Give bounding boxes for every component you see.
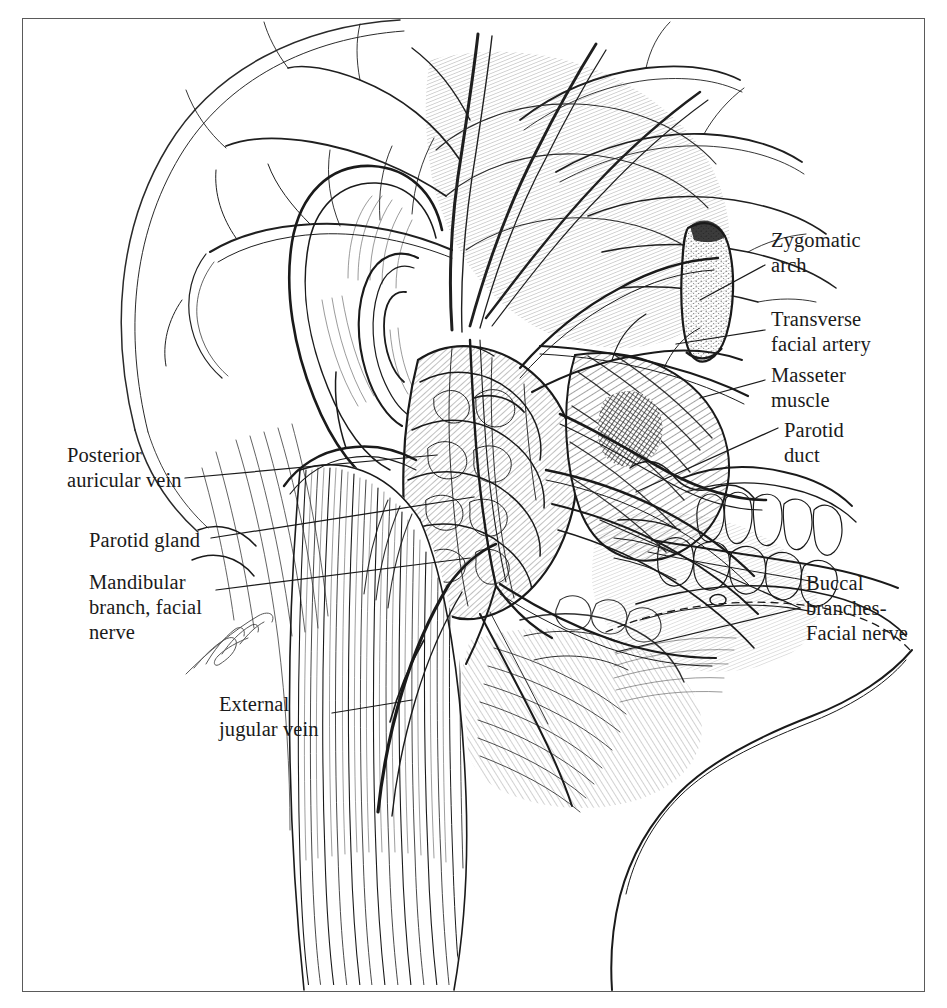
- label-mandibular-branch-facial-nerve: Mandibular branch, facial nerve: [89, 570, 202, 645]
- label-transverse-facial-artery: Transverse facial artery: [771, 307, 871, 357]
- anatomical-figure: Zygomatic arch Transverse facial artery …: [0, 0, 947, 1008]
- label-external-jugular-vein: External jugular vein: [219, 692, 319, 742]
- anatomy-illustration: [0, 0, 947, 1008]
- label-buccal-branches-facial-nerve: Buccal branches- Facial nerve: [806, 571, 908, 646]
- label-zygomatic-arch: Zygomatic arch: [771, 228, 861, 278]
- label-parotid-duct: Parotid duct: [784, 418, 844, 468]
- label-parotid-gland: Parotid gland: [89, 528, 200, 553]
- label-posterior-auricular-vein: Posterior auricular vein: [67, 443, 182, 493]
- splenius-fascia-edge: [192, 527, 256, 576]
- label-masseter-muscle: Masseter muscle: [771, 363, 846, 413]
